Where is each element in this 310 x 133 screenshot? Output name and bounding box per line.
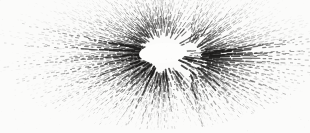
stipple-dot — [138, 124, 139, 125]
stipple-dot — [31, 66, 32, 67]
stipple-dot — [213, 77, 214, 78]
stipple-dot — [98, 94, 99, 95]
stipple-dot — [184, 124, 185, 125]
stipple-dot — [190, 125, 191, 126]
ray-mark — [276, 102, 277, 103]
stipple-dot — [163, 92, 164, 93]
stipple-dot — [254, 102, 255, 103]
stipple-dot — [156, 8, 157, 9]
stipple-dot — [206, 69, 207, 70]
stipple-dot — [214, 78, 215, 79]
stipple-dot — [186, 79, 187, 80]
stipple-dot — [73, 109, 74, 110]
stipple-dot — [150, 85, 151, 86]
stipple-dot — [177, 84, 178, 85]
stipple-dot — [176, 97, 177, 98]
stipple-dot — [66, 93, 67, 94]
stipple-dot — [228, 114, 229, 115]
ray-mark — [127, 60, 131, 61]
stipple-dot — [134, 19, 135, 20]
stipple-dot — [129, 55, 130, 56]
ray-mark — [88, 67, 91, 68]
stipple-dot — [128, 92, 129, 93]
stipple-dot — [163, 119, 164, 120]
stipple-dot — [215, 5, 216, 6]
stipple-dot — [192, 77, 193, 78]
ray-mark — [184, 10, 185, 11]
ray-mark — [157, 81, 158, 83]
stipple-dot — [173, 93, 174, 94]
stipple-dot — [170, 126, 171, 127]
ray-mark — [273, 102, 274, 103]
stipple-dot — [205, 65, 206, 66]
stipple-dot — [165, 91, 166, 92]
stipple-dot — [180, 12, 181, 13]
stipple-dot — [188, 101, 189, 102]
ray-mark — [196, 33, 197, 34]
stipple-dot — [199, 109, 200, 110]
stipple-dot — [167, 99, 168, 100]
stipple-dot — [132, 69, 133, 70]
ray-mark — [225, 65, 230, 66]
ray-mark — [143, 117, 144, 119]
stipple-dot — [166, 113, 167, 114]
ray-mark — [71, 85, 73, 86]
ray-mark — [206, 89, 207, 90]
stipple-dot — [243, 81, 244, 82]
stipple-dot — [228, 48, 229, 49]
ray-mark — [299, 37, 302, 38]
stipple-dot — [116, 61, 117, 62]
stipple-dot — [255, 14, 256, 15]
ray-mark — [107, 78, 109, 79]
stipple-dot — [137, 77, 138, 78]
stipple-dot — [110, 114, 111, 115]
stipple-dot — [223, 83, 224, 84]
stipple-dot — [38, 60, 39, 61]
stipple-dot — [261, 100, 262, 101]
stipple-dot — [166, 4, 167, 5]
ray-mark — [241, 94, 242, 95]
ray-mark — [123, 24, 124, 25]
stipple-dot — [148, 122, 149, 123]
stipple-dot — [145, 19, 146, 20]
ray-mark — [230, 62, 234, 63]
stipple-dot — [189, 98, 190, 99]
stipple-dot — [206, 76, 207, 77]
stipple-dot — [91, 14, 92, 15]
stipple-dot — [129, 76, 130, 77]
ray-mark — [211, 70, 213, 71]
stipple-dot — [113, 75, 114, 76]
ray-mark — [266, 45, 270, 46]
stipple-dot — [169, 94, 170, 95]
stipple-dot — [99, 100, 100, 101]
stipple-dot — [196, 63, 197, 64]
stipple-dot — [133, 99, 134, 100]
stipple-dot — [119, 86, 120, 87]
stipple-dot — [141, 87, 142, 88]
stipple-dot — [147, 9, 148, 10]
stipple-dot — [169, 109, 170, 110]
stipple-dot — [184, 94, 185, 95]
ray-mark — [200, 24, 201, 25]
stipple-dot — [120, 57, 121, 58]
ray-mark — [101, 66, 104, 67]
stipple-dot — [182, 87, 183, 88]
ray-mark — [225, 83, 226, 84]
ray-mark — [125, 31, 126, 32]
ray-mark — [202, 80, 203, 81]
stipple-dot — [264, 71, 265, 72]
stipple-dot — [149, 87, 150, 88]
stipple-dot — [169, 107, 170, 108]
stipple-dot — [43, 76, 44, 77]
stipple-dot — [124, 75, 125, 76]
stipple-dot — [198, 26, 199, 27]
stipple-dot — [109, 110, 110, 111]
stipple-dot — [232, 95, 233, 96]
stipple-dot — [184, 23, 185, 24]
stipple-dot — [200, 105, 201, 106]
ray-mark — [53, 31, 56, 32]
stipple-dot — [176, 121, 177, 122]
stipple-dot — [212, 114, 213, 115]
stipple-dot — [247, 24, 248, 25]
stipple-dot — [199, 106, 200, 107]
